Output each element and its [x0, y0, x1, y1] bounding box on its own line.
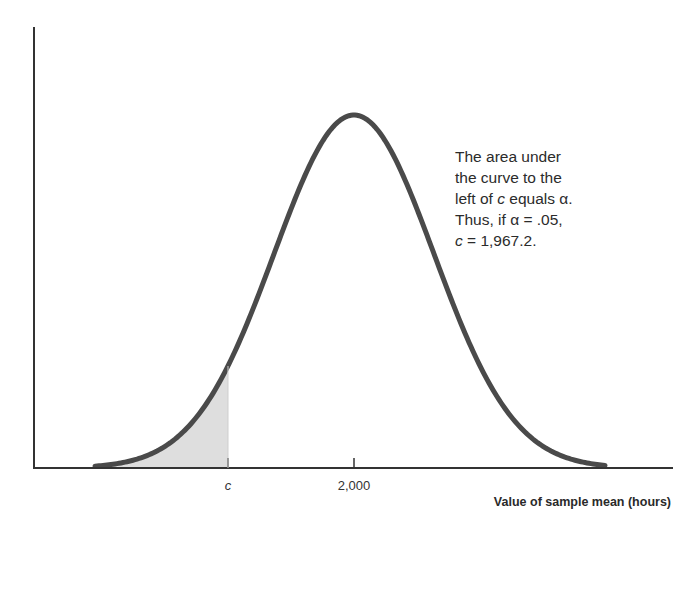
- annotation-line: left of c equals α.: [455, 188, 573, 209]
- shaded-rejection-region: [95, 366, 228, 468]
- annotation-line: c = 1,967.2.: [455, 230, 573, 251]
- x-axis-label: Value of sample mean (hours): [494, 495, 671, 509]
- tick-label-c: c: [225, 478, 232, 493]
- annotation-text: The area under the curve to the left of …: [455, 146, 573, 251]
- annotation-line: Thus, if α = .05,: [455, 209, 573, 230]
- tick-label-mean: 2,000: [338, 478, 371, 493]
- annotation-line: The area under: [455, 146, 573, 167]
- annotation-line: the curve to the: [455, 167, 573, 188]
